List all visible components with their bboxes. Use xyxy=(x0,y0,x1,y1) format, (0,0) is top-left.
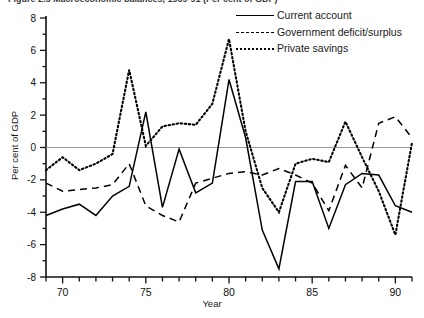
chart-figure: Figure 2.5 Macroeconomic balances, 1969-… xyxy=(0,0,424,318)
y-tick-label: -4 xyxy=(27,207,36,218)
series-line-current-account xyxy=(46,80,412,269)
legend-label-government: Government deficit/surplus xyxy=(277,27,402,38)
x-axis-title: Year xyxy=(0,298,424,309)
y-tick-label: 2 xyxy=(30,110,36,121)
y-tick-label: -8 xyxy=(27,272,36,283)
x-tick-label: 75 xyxy=(140,286,152,298)
legend-item-government: Government deficit/surplus xyxy=(236,25,424,40)
legend-key-current-account xyxy=(236,11,274,21)
series-line-government-deficit-surplus xyxy=(46,117,412,222)
x-tick-label: 85 xyxy=(306,286,318,298)
legend-key-government xyxy=(236,27,274,37)
x-tick-label: 90 xyxy=(390,286,402,298)
x-tick-label: 80 xyxy=(223,286,235,298)
legend-label-private-savings: Private savings xyxy=(277,43,348,54)
legend-key-private-savings xyxy=(236,44,274,54)
y-tick-label: -2 xyxy=(27,174,36,185)
y-tick-label: 8 xyxy=(30,13,36,24)
y-tick-label: 6 xyxy=(30,45,36,56)
y-axis-title: Per cent of GDP xyxy=(9,101,20,191)
legend-item-current-account: Current account xyxy=(236,8,424,23)
y-tick-label: 0 xyxy=(30,142,36,153)
legend-item-private-savings: Private savings xyxy=(236,41,424,56)
chart-legend: Current account Government deficit/surpl… xyxy=(236,8,424,58)
y-tick-label: -6 xyxy=(27,239,36,250)
x-tick-label: 70 xyxy=(57,286,69,298)
series-line-private-savings xyxy=(46,39,412,235)
y-tick-label: 4 xyxy=(30,77,36,88)
legend-label-current-account: Current account xyxy=(277,10,352,21)
